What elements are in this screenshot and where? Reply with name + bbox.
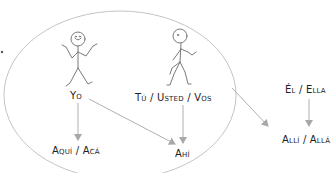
label-yo: Yo bbox=[70, 90, 82, 101]
arrow-yo-to-ahi bbox=[89, 99, 175, 144]
arrow-ellipse-to-alli bbox=[232, 88, 268, 126]
stick-figure-yo-icon bbox=[62, 32, 97, 86]
label-el-ella: Él / Ella bbox=[285, 84, 326, 95]
dot-mark bbox=[1, 51, 3, 53]
label-alli-alla: Allí / Allá bbox=[282, 134, 330, 145]
label-ahi: Ahí bbox=[175, 148, 190, 159]
label-aqui-aca: Aquí / Acá bbox=[52, 145, 100, 156]
stick-figure-tu-icon bbox=[167, 29, 196, 85]
label-tu-usted-vos: Tú / Usted / Vos bbox=[135, 92, 212, 103]
